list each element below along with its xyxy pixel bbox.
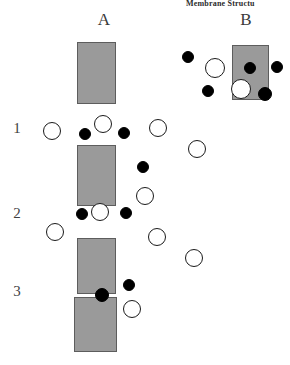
particle-open: [94, 115, 112, 133]
particle-filled: [76, 208, 88, 220]
particle-filled: [118, 127, 130, 139]
particle-open: [185, 249, 203, 267]
row-label-3: 3: [10, 283, 24, 300]
figure-caption: Membrane Structu: [186, 0, 255, 8]
particle-open: [123, 300, 141, 318]
particle-filled: [244, 62, 256, 74]
particle-open: [149, 119, 167, 137]
particle-open: [91, 203, 109, 221]
particle-filled: [120, 207, 132, 219]
membrane-segment: [77, 238, 116, 294]
panel-letter-a: A: [92, 10, 116, 30]
particle-open: [231, 79, 251, 99]
membrane-segment: [77, 145, 116, 206]
particle-filled: [79, 128, 91, 140]
particle-open: [205, 58, 225, 78]
particle-filled: [202, 85, 214, 97]
membrane-segment: [74, 297, 117, 352]
panel-letter-b: B: [234, 10, 258, 30]
particle-filled: [182, 51, 194, 63]
membrane-segment: [77, 42, 116, 104]
particle-open: [188, 140, 206, 158]
particle-filled: [271, 61, 283, 73]
particle-filled: [258, 87, 272, 101]
row-label-2: 2: [10, 205, 24, 222]
particle-open: [148, 228, 166, 246]
row-label-1: 1: [10, 120, 24, 137]
particle-filled: [95, 288, 109, 302]
particle-open: [46, 223, 64, 241]
membrane-structure-figure: Membrane Structu AB 123: [0, 0, 290, 365]
particle-filled: [123, 279, 135, 291]
particle-filled: [137, 161, 149, 173]
particle-open: [136, 187, 154, 205]
particle-open: [43, 122, 61, 140]
